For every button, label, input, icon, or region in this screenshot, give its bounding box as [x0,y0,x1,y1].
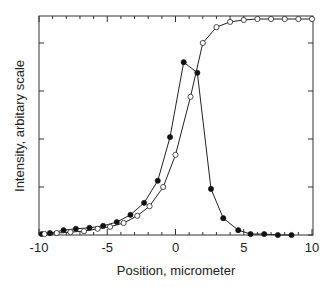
x-tick-label: 5 [240,240,247,255]
data-point [121,220,126,225]
data-point [81,229,86,234]
data-point [173,152,178,157]
filled-circles-series [39,60,294,238]
data-point [221,216,226,221]
data-point [142,200,147,205]
data-point [107,224,112,229]
data-point [73,226,78,231]
data-point [282,16,287,21]
data-point [128,212,133,217]
data-point [135,213,140,218]
data-series [39,16,314,237]
data-point [255,16,260,21]
data-point [155,178,160,183]
data-point [262,231,267,236]
data-point [200,40,205,45]
plot-border [39,16,313,235]
x-tick-label: -10 [30,240,49,255]
data-point [54,230,59,235]
data-point [114,219,119,224]
data-point [167,134,172,139]
data-point [296,16,301,21]
data-point [68,230,73,235]
x-tick-label: 10 [305,240,319,255]
data-point [268,16,273,21]
data-point [214,25,219,30]
chart: -10-50510 Position, micrometer Intensity… [0,0,335,287]
data-point [208,186,213,191]
data-point [289,232,294,237]
axis-ticks: -10-50510 [30,16,320,255]
x-tick-label: -5 [101,240,113,255]
data-point [228,19,233,24]
open-circles-series [42,16,315,236]
x-axis-label: Position, micrometer [117,263,236,278]
data-point [188,94,193,99]
data-point [181,60,186,65]
data-point [248,231,253,236]
data-point [236,228,241,233]
data-point [309,16,314,21]
data-point [95,226,100,231]
plot-frame [39,16,313,235]
data-point [275,232,280,237]
data-point [161,184,166,189]
data-point [147,204,152,209]
data-point [42,231,47,236]
data-point [241,17,246,22]
x-tick-label: 0 [172,240,179,255]
y-axis-label: Intensity, arbitary scale [12,60,27,192]
